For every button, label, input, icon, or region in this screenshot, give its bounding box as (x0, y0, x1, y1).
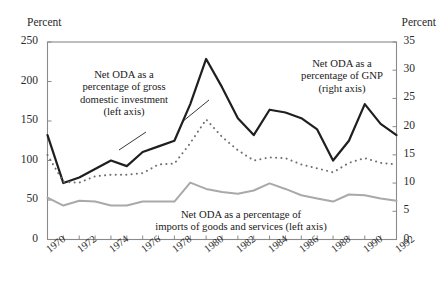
y2-tick-label: 30 (404, 62, 430, 74)
leader-gdi-2 (182, 100, 209, 122)
y-tick-label: 250 (8, 34, 38, 46)
y2-tick-label: 25 (404, 90, 430, 102)
y-tick-label: 50 (8, 192, 38, 204)
y-tick-label: 100 (8, 153, 38, 165)
y2-tick-label: 35 (404, 34, 430, 46)
series-line-0 (48, 59, 397, 183)
y2-tick-label: 5 (404, 203, 430, 215)
y-tick-label: 200 (8, 74, 38, 86)
series-line-2 (48, 183, 397, 206)
y2-tick-label: 15 (404, 147, 430, 159)
y-tick-label: 0 (8, 232, 38, 244)
axis-ticks (48, 42, 397, 240)
data-series (48, 59, 397, 206)
leader-gdi (119, 132, 146, 150)
annotation-leader-lines (119, 100, 209, 150)
plot-frame (48, 42, 397, 240)
y2-tick-label: 20 (404, 119, 430, 131)
series-line-1 (48, 119, 397, 182)
y2-tick-label: 10 (404, 175, 430, 187)
y-tick-label: 150 (8, 113, 38, 125)
chart-canvas (0, 0, 444, 293)
